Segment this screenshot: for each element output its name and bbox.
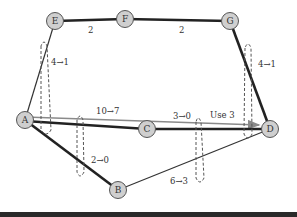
- node-c: C: [139, 121, 156, 138]
- node-e: E: [47, 13, 64, 30]
- node-a: A: [17, 112, 34, 129]
- label-a-b: 2→0: [91, 155, 109, 165]
- svg-text:C: C: [144, 124, 151, 134]
- svg-text:A: A: [21, 115, 29, 125]
- cut-oval-left: [41, 42, 51, 134]
- node-g: G: [222, 13, 239, 30]
- svg-text:D: D: [266, 124, 273, 134]
- node-d: D: [262, 121, 279, 138]
- edge-f-g: [125, 19, 230, 21]
- bottom-border-bar: [0, 212, 297, 217]
- edge-a-c: [25, 121, 147, 129]
- edge-a-e: [25, 21, 55, 120]
- label-c-d: 3→0: [173, 111, 191, 121]
- svg-text:E: E: [52, 16, 59, 26]
- node-b: B: [110, 182, 127, 199]
- cut-oval-bd: [196, 118, 204, 182]
- label-b-d: 6→3: [170, 176, 188, 186]
- svg-text:F: F: [122, 14, 128, 24]
- node-f: F: [117, 11, 134, 28]
- flow-diagram: 2 2 4→1 4→1 10→7 3→0 Use 3 2→0 6→3 E F G…: [0, 0, 297, 217]
- label-f-g: 2: [179, 25, 184, 35]
- label-e-f: 2: [88, 25, 93, 35]
- svg-text:G: G: [226, 16, 233, 26]
- label-a-e: 4→1: [51, 57, 69, 67]
- label-use: Use 3: [210, 110, 235, 120]
- edge-e-f: [55, 19, 125, 21]
- label-a-d: 10→7: [96, 106, 119, 116]
- label-g-d: 4→1: [258, 59, 276, 69]
- svg-text:B: B: [115, 185, 122, 195]
- edge-g-d: [230, 21, 270, 129]
